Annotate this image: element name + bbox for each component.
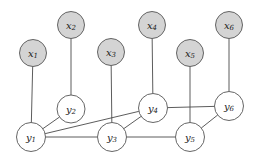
graph-node-x3[interactable]: x3 — [98, 39, 125, 66]
graph-node-x5[interactable]: x5 — [177, 40, 204, 67]
graph-node-y4[interactable]: y4 — [139, 94, 168, 123]
graph-node-y1[interactable]: y1 — [17, 123, 46, 152]
node-circle-y6 — [215, 92, 244, 121]
graph-edge-y4-y6 — [167, 106, 214, 107]
graph-node-x6[interactable]: x6 — [216, 12, 243, 39]
graph-edge-x1-y1 — [31, 66, 32, 122]
graph-node-x2[interactable]: x2 — [58, 12, 85, 39]
graph-edge-x3-y3 — [111, 65, 112, 122]
node-circle-y2 — [57, 95, 85, 123]
graph-edge-y5-y6 — [201, 115, 217, 128]
node-circle-x3 — [98, 39, 125, 66]
node-circle-x6 — [216, 12, 243, 39]
node-circle-y5 — [176, 123, 205, 152]
node-circle-x4 — [139, 12, 166, 39]
node-circle-y3 — [98, 123, 127, 152]
graph-node-x4[interactable]: x4 — [139, 12, 166, 39]
node-circle-x2 — [58, 12, 85, 39]
graph-edge-y3-y4 — [124, 116, 141, 128]
node-layer: x1x2x3x4x5x6y1y2y3y4y5y6 — [17, 12, 244, 152]
node-circle-y1 — [17, 123, 46, 152]
graph-node-y2[interactable]: y2 — [57, 95, 85, 123]
graph-canvas: x1x2x3x4x5x6y1y2y3y4y5y6 — [0, 0, 255, 164]
graph-node-y3[interactable]: y3 — [98, 123, 127, 152]
node-circle-x5 — [177, 40, 204, 67]
graph-node-x1[interactable]: x1 — [20, 40, 47, 67]
node-circle-y4 — [139, 94, 168, 123]
node-circle-x1 — [20, 40, 47, 67]
graph-node-y5[interactable]: y5 — [176, 123, 205, 152]
graph-edge-x4-y4 — [152, 38, 153, 93]
graphical-model-figure: x1x2x3x4x5x6y1y2y3y4y5y6 — [0, 0, 255, 164]
graph-edge-y1-y2 — [43, 117, 60, 129]
graph-node-y6[interactable]: y6 — [215, 92, 244, 121]
